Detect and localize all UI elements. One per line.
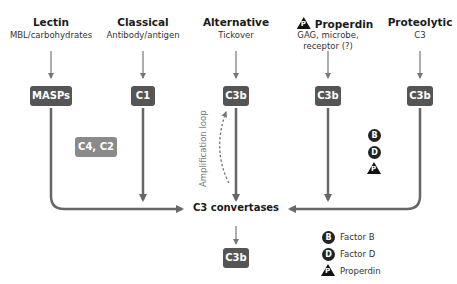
box-c3b-proteolytic: C3b [407, 86, 433, 106]
pathway-title-classical: Classical [117, 16, 168, 28]
properdin-title-text: Properdin [315, 18, 374, 30]
pathway-subtitle-classical: Antibody/antigen [106, 30, 179, 41]
properdin-triangle-icon: P [297, 17, 311, 29]
pathway-subtitle-alternative: Tickover [218, 30, 254, 41]
c3-convertases-label: C3 convertases [193, 202, 279, 213]
box-c1: C1 [131, 86, 155, 106]
legend-factor-d-icon: D [322, 248, 335, 261]
box-c3b-output: C3b [223, 248, 249, 268]
pathway-subtitle-lectin: MBL/carbohydrates [10, 30, 92, 41]
box-masps: MASPs [30, 86, 72, 106]
diagram-edges [0, 0, 457, 284]
legend-properdin-icon: P [321, 264, 335, 276]
pathway-title-alternative: Alternative [203, 16, 269, 28]
legend-factor-d-label: Factor D [340, 249, 375, 259]
pathway-title-properdin: PProperdin [297, 16, 374, 30]
pathway-title-proteolytic: Proteolytic [388, 16, 453, 28]
box-c4-c2: C4, C2 [75, 137, 117, 157]
box-c3b-alternative: C3b [223, 86, 249, 106]
factor-d-badge-icon: D [368, 146, 381, 159]
properdin-badge-icon: P [367, 162, 381, 174]
amplification-loop-label: Amplification loop [198, 110, 208, 187]
pathway-title-lectin: Lectin [33, 16, 69, 28]
box-c3b-properdin: C3b [315, 86, 341, 106]
legend-factor-b-icon: B [322, 231, 335, 244]
legend-properdin-label: Properdin [340, 266, 381, 276]
factor-b-badge-icon: B [368, 129, 381, 142]
properdin-subtitle-line1: GAG, microbe, [297, 30, 358, 41]
legend-factor-b-label: Factor B [340, 232, 375, 242]
pathway-subtitle-proteolytic: C3 [414, 30, 425, 41]
pathway-subtitle-properdin: GAG, microbe, receptor (?) [297, 30, 358, 52]
properdin-subtitle-line2: receptor (?) [297, 41, 358, 52]
